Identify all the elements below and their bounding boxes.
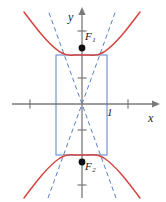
focus-upper-label: F1 (85, 31, 95, 42)
focus-upper-subscript: 1 (92, 36, 95, 43)
focus-upper-letter: F (85, 30, 92, 42)
y-axis-arrowhead (78, 7, 85, 15)
y-axis-label: y (68, 11, 73, 23)
focus-lower-label: F2 (85, 161, 95, 172)
focus-upper-dot (79, 45, 86, 52)
x-axis-label: x (148, 112, 153, 124)
focus-lower-subscript: 2 (92, 166, 95, 173)
plot-canvas (0, 0, 166, 202)
focus-lower-letter: F (85, 160, 92, 172)
hyperbola-figure: y x 1 F1 F2 (0, 0, 166, 202)
x-axis-unit-label: 1 (107, 107, 113, 118)
x-axis-arrowhead (152, 100, 160, 107)
